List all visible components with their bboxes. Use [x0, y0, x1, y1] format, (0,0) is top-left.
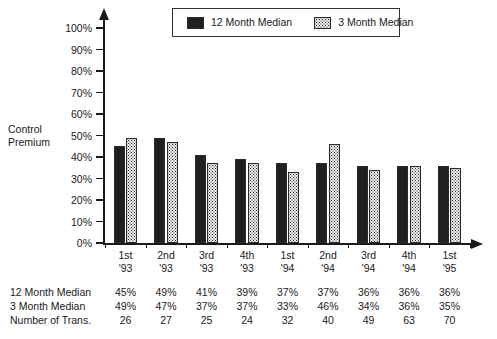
bar-3-month-median [167, 142, 178, 243]
x-axis-group-label: 4th'93 [224, 249, 270, 275]
table-cell: 34% [346, 300, 392, 314]
x-axis-group-label: 3rd'93 [184, 249, 230, 275]
y-axis-tick [96, 27, 103, 29]
table-cell: 46% [305, 300, 351, 314]
table-cell: 36% [427, 286, 473, 300]
x-axis-tick [186, 243, 187, 248]
bar-3-month-median [450, 168, 461, 243]
table-cell: 39% [224, 286, 270, 300]
bar-12-month-median [357, 166, 368, 243]
y-axis-tick [96, 242, 103, 244]
x-axis-group-year: '93 [224, 262, 270, 275]
bar-3-month-median [329, 144, 340, 243]
x-axis-group-year: '93 [184, 262, 230, 275]
bar-12-month-median [276, 163, 287, 243]
bar-3-month-median [248, 163, 259, 243]
table-cell: 70 [427, 314, 473, 328]
x-axis-group-label: 1st'93 [103, 249, 149, 275]
bar-12-month-median [397, 166, 408, 243]
table-cell: 49% [103, 300, 149, 314]
bar-12-month-median [154, 138, 165, 243]
x-axis-tick [146, 243, 147, 248]
table-cell: 49% [143, 286, 189, 300]
table-cell: 36% [386, 300, 432, 314]
table-cell: 49 [346, 314, 392, 328]
x-axis-tick [227, 243, 228, 248]
y-axis-tick [96, 199, 103, 201]
bar-12-month-median [316, 163, 327, 243]
x-axis-group-quarter: 3rd [346, 249, 392, 262]
x-axis-group-quarter: 2nd [305, 249, 351, 262]
y-axis-tick-label: 100% [32, 23, 92, 33]
x-axis-group-quarter: 4th [386, 249, 432, 262]
x-axis-group-quarter: 1st [265, 249, 311, 262]
table-cell: 32 [265, 314, 311, 328]
x-axis-group-label: 1st'94 [265, 249, 311, 275]
table-cell: 24 [224, 314, 270, 328]
x-axis-group-label: 1st'95 [427, 249, 473, 275]
x-axis-tick [470, 243, 471, 248]
x-axis-tick [389, 243, 390, 248]
table-cell: 63 [386, 314, 432, 328]
x-axis-group-label: 4th'94 [386, 249, 432, 275]
y-axis-tick-label: 60% [32, 109, 92, 119]
bar-3-month-median [288, 172, 299, 243]
x-axis-group-quarter: 2nd [143, 249, 189, 262]
y-axis-tick-label: 0% [32, 238, 92, 248]
y-axis-tick-label: 10% [32, 217, 92, 227]
x-axis-tick [267, 243, 268, 248]
x-axis-group-year: '94 [346, 262, 392, 275]
bar-12-month-median [195, 155, 206, 243]
table-cell: 45% [103, 286, 149, 300]
table-cell: 37% [265, 286, 311, 300]
bar-3-month-median [410, 166, 421, 243]
table-row-label: Number of Trans. [10, 314, 115, 328]
bar-chart: ControlPremium 0%10%20%30%40%50%60%70%80… [0, 0, 497, 260]
bar-12-month-median [114, 146, 125, 243]
y-axis-tick [96, 49, 103, 51]
x-axis-group-quarter: 4th [224, 249, 270, 262]
y-axis-tick [96, 221, 103, 223]
table-row-label: 3 Month Median [10, 300, 115, 314]
x-axis-group-year: '94 [265, 262, 311, 275]
x-axis-tick [348, 243, 349, 248]
x-axis-group-quarter: 1st [103, 249, 149, 262]
table-cell: 41% [184, 286, 230, 300]
y-axis-tick-label: 70% [32, 88, 92, 98]
x-axis-tick [105, 243, 106, 248]
y-axis-tick-label: 50% [32, 131, 92, 141]
y-axis-tick [96, 156, 103, 158]
x-axis-group-label: 3rd'94 [346, 249, 392, 275]
table-cell: 25 [184, 314, 230, 328]
table-cell: 36% [386, 286, 432, 300]
bar-3-month-median [369, 170, 380, 243]
table-cell: 37% [224, 300, 270, 314]
x-axis-group-year: '93 [103, 262, 149, 275]
x-axis-tick [429, 243, 430, 248]
bar-3-month-median [126, 138, 137, 243]
y-axis-tick [96, 135, 103, 137]
x-axis-group-year: '94 [386, 262, 432, 275]
table-cell: 36% [346, 286, 392, 300]
x-axis-arrow [471, 239, 483, 249]
y-axis-tick [96, 178, 103, 180]
table-cell: 37% [184, 300, 230, 314]
y-axis-labels: 0%10%20%30%40%50%60%70%80%90%100% [28, 0, 92, 260]
x-axis-group-year: '95 [427, 262, 473, 275]
plot-bars [103, 18, 473, 243]
table-cell: 47% [143, 300, 189, 314]
x-axis-group-year: '94 [305, 262, 351, 275]
bar-12-month-median [438, 166, 449, 243]
table-cell: 27 [143, 314, 189, 328]
y-axis-tick [96, 92, 103, 94]
y-axis-tick [96, 113, 103, 115]
table-cell: 37% [305, 286, 351, 300]
x-axis-group-label: 2nd'94 [305, 249, 351, 275]
y-axis-tick-label: 30% [32, 174, 92, 184]
bar-3-month-median [207, 163, 218, 243]
table-row-label: 12 Month Median [10, 286, 115, 300]
x-axis-tick [308, 243, 309, 248]
y-axis-tick-label: 80% [32, 66, 92, 76]
x-axis-group-quarter: 3rd [184, 249, 230, 262]
table-cell: 40 [305, 314, 351, 328]
